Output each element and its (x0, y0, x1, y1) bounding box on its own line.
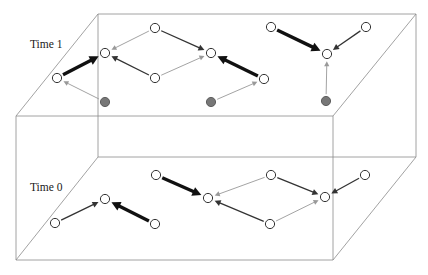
planes-group (16, 14, 416, 260)
vertical-edges-group (16, 14, 416, 260)
arrows-group (61, 30, 360, 221)
open-node[interactable] (150, 219, 159, 228)
arrow-weak (63, 81, 98, 99)
nodes-group (50, 22, 370, 228)
open-node[interactable] (52, 73, 61, 82)
time-1-plane (16, 14, 416, 116)
open-node[interactable] (265, 219, 274, 228)
arrow-medium (161, 31, 204, 51)
open-node[interactable] (203, 193, 212, 202)
time-0-plane-label: Time 0 (30, 181, 63, 193)
filled-node[interactable] (321, 96, 330, 105)
arrow-weak (276, 200, 318, 221)
arrow-medium (61, 202, 98, 220)
open-node[interactable] (361, 22, 370, 31)
open-node[interactable] (100, 194, 109, 203)
plane-labels-group: Time 1Time 0 (30, 38, 63, 193)
open-node[interactable] (360, 170, 369, 179)
arrow-weak (111, 31, 148, 50)
open-node[interactable] (320, 192, 329, 201)
open-node[interactable] (266, 170, 275, 179)
time-1-plane-label: Time 1 (30, 38, 63, 50)
filled-node[interactable] (100, 97, 109, 106)
open-node[interactable] (150, 23, 159, 32)
open-node[interactable] (100, 48, 109, 57)
arrow-strong (217, 56, 257, 76)
open-node[interactable] (150, 73, 159, 82)
open-node[interactable] (259, 74, 268, 83)
arrow-medium (331, 178, 359, 193)
arrow-weak (217, 81, 257, 99)
open-node[interactable] (322, 49, 331, 58)
open-node[interactable] (151, 170, 160, 179)
time-0-plane (16, 157, 416, 260)
arrow-medium (277, 178, 318, 195)
arrow-strong (63, 56, 99, 75)
arrow-weak (324, 61, 329, 94)
arrow-weak (161, 56, 204, 76)
open-node[interactable] (206, 48, 215, 57)
arrow-strong (277, 30, 320, 51)
figure-root: Time 1Time 0 (0, 0, 428, 275)
filled-node[interactable] (206, 97, 215, 106)
arrow-medium (333, 31, 360, 50)
arrow-strong (111, 202, 148, 221)
temporal-network-diagram: Time 1Time 0 (0, 0, 428, 275)
arrow-weak (215, 177, 265, 196)
arrow-medium (111, 56, 148, 75)
open-node[interactable] (50, 218, 59, 227)
arrow-medium (215, 200, 264, 221)
open-node[interactable] (266, 22, 275, 31)
arrow-strong (162, 178, 201, 196)
